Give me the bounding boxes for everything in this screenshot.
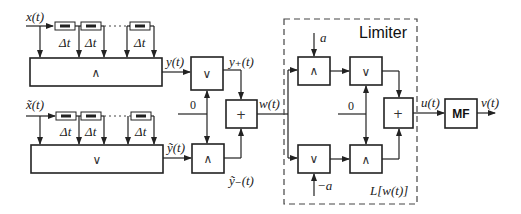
plus-operator: + [236, 108, 246, 122]
signal-y-plus-label: y₊(t) [227, 54, 254, 69]
delay-label: Δt [84, 124, 97, 139]
signal-y-label: y(t) [164, 54, 184, 69]
combiner-stage: ∨ ∧ 0 y₊(t) ỹ₋(t) + w(t) [178, 54, 297, 188]
output-stage: u(t) MF v(t) [413, 95, 499, 128]
input-x-label: x(t) [25, 9, 44, 24]
delay-label: Δt [84, 35, 97, 50]
limiter-function-label: L[w(t)] [369, 183, 408, 198]
upper-delay-chain: x(t) Δt Δt Δt ∧ y(t) [25, 9, 190, 86]
delay-label: Δt [134, 124, 147, 139]
and-operator: ∧ [204, 152, 213, 166]
signal-u-label: u(t) [421, 95, 440, 110]
signal-y-minus-tilde-label: ỹ₋(t) [227, 173, 254, 188]
param-a-label: a [320, 30, 327, 45]
limiter-block: Limiter a ∧ ∨ 0 ∨ ∧ −a + L[w(t)] [284, 19, 417, 204]
delay-label: Δt [133, 35, 146, 50]
signal-v-label: v(t) [481, 95, 499, 110]
input-x-tilde-label: x̃(t) [25, 97, 44, 112]
limiter-block-diagram: x(t) Δt Δt Δt ∧ y(t) x̃(t) [0, 0, 521, 214]
zero-constant-label: 0 [348, 99, 354, 113]
and-operator: ∧ [310, 64, 319, 78]
and-operator: ∧ [362, 153, 371, 167]
or-operator: ∨ [203, 67, 212, 81]
mf-label: MF [452, 107, 469, 121]
zero-constant-label: 0 [190, 98, 196, 112]
or-operator: ∨ [362, 65, 371, 79]
signal-y-tilde-label: ỹ(t) [165, 140, 185, 155]
or-operator: ∨ [93, 153, 102, 167]
plus-operator: + [393, 107, 403, 121]
param-minus-a-label: −a [317, 178, 333, 193]
delay-label: Δt [58, 35, 71, 50]
lower-delay-chain: x̃(t) Δt Δt Δt ∨ ỹ(t) [25, 97, 191, 173]
or-operator: ∨ [310, 152, 319, 166]
limiter-title: Limiter [359, 24, 408, 41]
and-operator: ∧ [92, 66, 101, 80]
delay-label: Δt [59, 124, 72, 139]
signal-w-label: w(t) [259, 96, 280, 111]
